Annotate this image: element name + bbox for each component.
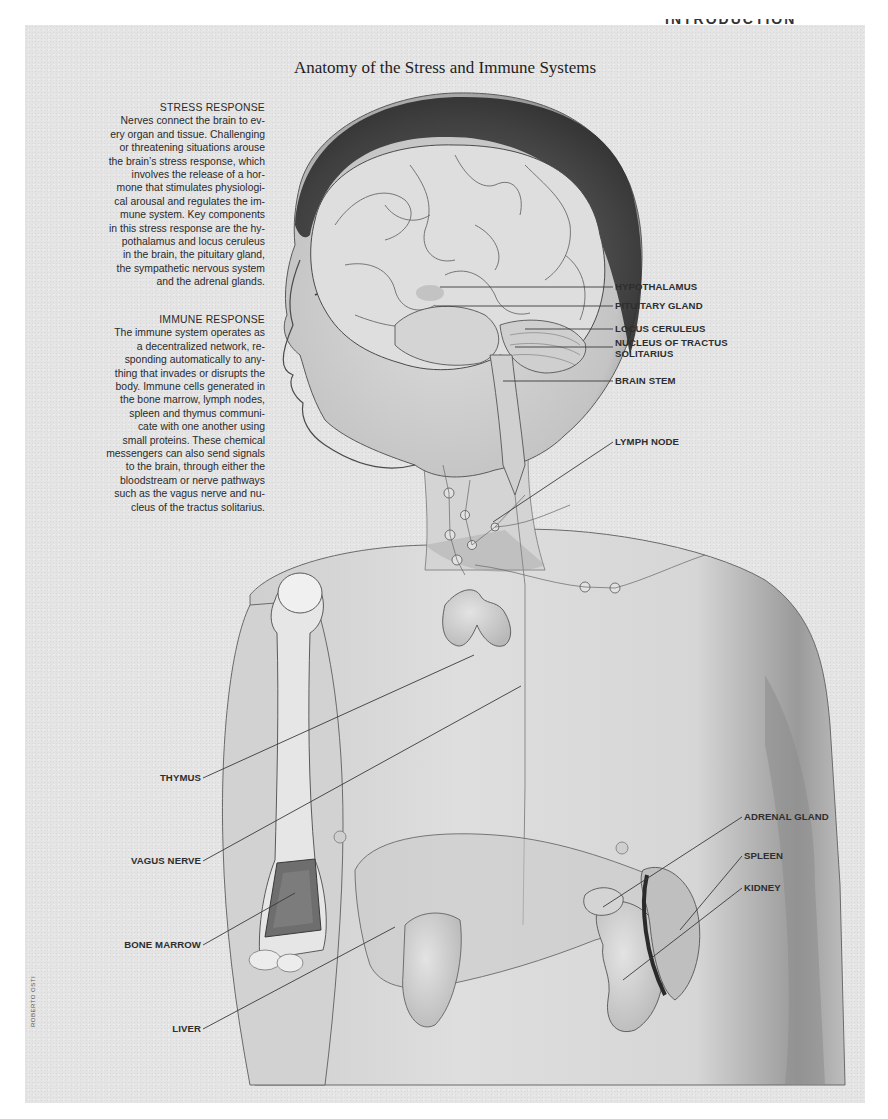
label-adrenal-gland: ADRENAL GLAND [744, 811, 829, 822]
text-line: sponding automatically to any- [75, 353, 265, 366]
stress-response-text: STRESS RESPONSE Nerves connect the brain… [75, 101, 265, 289]
label-line: NUCLEUS OF TRACTUS [615, 337, 728, 348]
text-line: The immune system operates as [75, 326, 265, 339]
label-line: SOLITARIUS [615, 348, 728, 359]
illustrator-credit: ROBERTO OSTI [30, 967, 40, 1027]
text-line: pothalamus and locus ceruleus [75, 235, 265, 248]
text-line: in this stress response are the hy- [75, 222, 265, 235]
text-line: mune system. Key components [75, 208, 265, 221]
text-line: spleen and thymus communi- [75, 407, 265, 420]
text-line: such as the vagus nerve and nu- [75, 487, 265, 500]
label-kidney: KIDNEY [744, 882, 781, 893]
text-line: a decentralized network, re- [75, 340, 265, 353]
label-spleen: SPLEEN [744, 850, 783, 861]
label-nucleus-tractus-solitarius: NUCLEUS OF TRACTUS SOLITARIUS [615, 337, 728, 359]
label-pituitary-gland: PITUITARY GLAND [615, 300, 703, 311]
text-line: cal arousal and regulates the im- [75, 195, 265, 208]
text-line: cleus of the tractus solitarius. [75, 501, 265, 514]
text-line: to the brain, through either the [75, 460, 265, 473]
label-locus-ceruleus: LOCUS CERULEUS [615, 323, 705, 334]
immune-response-text: IMMUNE RESPONSE The immune system operat… [75, 313, 265, 514]
text-line: Nerves connect the brain to ev- [75, 114, 265, 127]
text-line: thing that invades or disrupts the [75, 367, 265, 380]
text-line: the sympathetic nervous system [75, 262, 265, 275]
label-brain-stem: BRAIN STEM [615, 375, 676, 386]
illustration-panel: INTRODUCTION [25, 25, 865, 1103]
text-line: and the adrenal glands. [75, 275, 265, 288]
figure-title: Anatomy of the Stress and Immune Systems [25, 58, 865, 78]
label-vagus-nerve: VAGUS NERVE [131, 855, 201, 866]
label-liver: LIVER [172, 1023, 201, 1034]
text-line: mone that stimulates physiologi- [75, 181, 265, 194]
text-line: the bone marrow, lymph nodes, [75, 393, 265, 406]
label-lymph-node: LYMPH NODE [615, 436, 679, 447]
text-line: or threatening situations arouse [75, 141, 265, 154]
label-bone-marrow: BONE MARROW [124, 939, 201, 950]
label-thymus: THYMUS [160, 772, 201, 783]
text-line: ery organ and tissue. Challenging [75, 128, 265, 141]
text-line: the brain’s stress response, which [75, 155, 265, 168]
text-line: small proteins. These chemical [75, 434, 265, 447]
text-line: cate with one another using [75, 420, 265, 433]
text-line: messengers can also send signals [75, 447, 265, 460]
label-hypothalamus: HYPOTHALAMUS [615, 281, 697, 292]
text-line: body. Immune cells generated in [75, 380, 265, 393]
text-line: in the brain, the pituitary gland, [75, 248, 265, 261]
stress-response-heading: STRESS RESPONSE [75, 101, 265, 114]
text-line: involves the release of a hor- [75, 168, 265, 181]
immune-response-heading: IMMUNE RESPONSE [75, 313, 265, 326]
text-line: bloodstream or nerve pathways [75, 474, 265, 487]
